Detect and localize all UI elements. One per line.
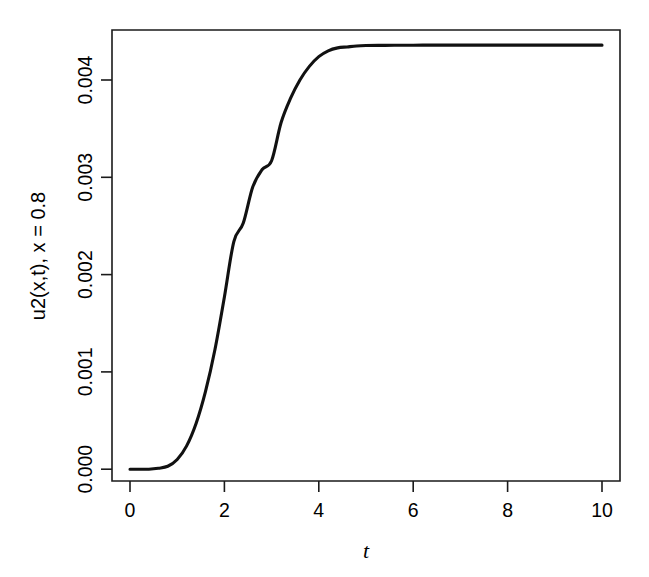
chart-figure: 0 2 4 6 8 10 0.000 0.001 0.002 0.003 0.0…: [0, 0, 649, 577]
y-tick-label-2: 0.002: [74, 250, 96, 299]
x-tick-label-3: 6: [408, 499, 419, 521]
y-tick-label-3: 0.003: [74, 153, 96, 202]
x-tick-label-1: 2: [219, 499, 230, 521]
line-chart-plot: 0 2 4 6 8 10 0.000 0.001 0.002 0.003 0.0…: [0, 0, 649, 577]
y-axis-ticks: [101, 80, 112, 469]
y-axis-title: u2(x,t), x = 0.8: [27, 192, 49, 320]
data-series-curve: [130, 45, 602, 469]
x-tick-label-2: 4: [313, 499, 324, 521]
y-tick-labels: 0.000 0.001 0.002 0.003 0.004: [74, 55, 96, 493]
x-axis-ticks: [130, 481, 602, 492]
x-tick-label-5: 10: [591, 499, 613, 521]
x-axis-title: t: [363, 538, 370, 563]
x-tick-labels: 0 2 4 6 8 10: [125, 499, 613, 521]
x-tick-label-0: 0: [125, 499, 136, 521]
y-tick-label-4: 0.004: [74, 55, 96, 104]
y-tick-label-1: 0.001: [74, 347, 96, 396]
y-tick-label-0: 0.000: [74, 445, 96, 494]
x-tick-label-4: 8: [502, 499, 513, 521]
plot-box-frame: [112, 30, 620, 481]
